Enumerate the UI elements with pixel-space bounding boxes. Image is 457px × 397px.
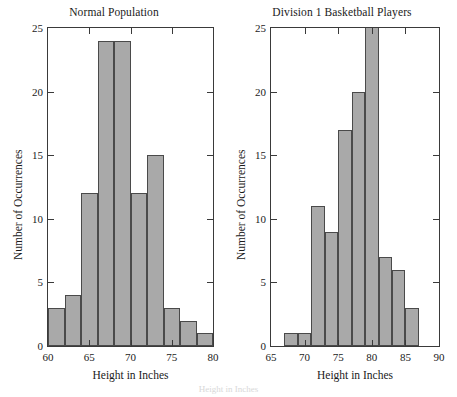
y-axis-tick-label: 5 [38,276,44,288]
y-axis-tick [271,282,277,283]
chart-title-left: Normal Population [0,6,228,18]
chart-title-right: Division 1 Basketball Players [228,6,456,18]
y-axis-tick [207,219,213,220]
x-axis-tick [405,28,406,34]
histogram-bar [352,92,365,346]
histogram-bar [392,270,405,346]
x-axis-tick-label: 75 [333,351,344,363]
y-axis-tick [207,155,213,156]
y-axis-tick-label: 20 [255,86,266,98]
y-axis-tick-label: 15 [32,149,43,161]
histogram-bar [379,257,392,346]
plot-area-right: 0510152025657075808590 [270,27,440,347]
x-axis-tick-label: 80 [366,351,377,363]
x-axis-tick [172,340,173,346]
y-axis-tick [433,219,439,220]
y-axis-tick-label: 20 [32,86,43,98]
histogram-figure: Normal Population 05101520256065707580 H… [0,0,457,397]
bars-container-right [271,28,439,346]
y-axis-tick-label: 25 [32,22,43,34]
y-axis-tick [48,92,54,93]
histogram-bar [338,130,351,346]
histogram-bar [311,206,324,346]
y-axis-tick [271,155,277,156]
histogram-bar [114,41,131,346]
histogram-bar [405,308,418,346]
histogram-bar [131,193,148,346]
x-axis-tick [338,340,339,346]
x-axis-title-left: Height in Inches [47,369,214,381]
y-axis-tick [433,282,439,283]
y-axis-title-right: Number of Occurrences [235,150,247,260]
histogram-bar [365,28,378,346]
y-axis-title-left: Number of Occurrences [12,150,24,260]
x-axis-tick-label: 80 [208,351,219,363]
x-axis-title-right: Height in Inches [270,369,440,381]
histogram-bar [284,333,297,346]
plot-area-left: 05101520256065707580 [47,27,214,347]
chart-panel-division-1-basketball: Division 1 Basketball Players 0510152025… [228,0,456,380]
x-axis-tick-label: 85 [400,351,411,363]
x-axis-tick [405,340,406,346]
histogram-bar [98,41,115,346]
x-axis-tick [372,28,373,34]
x-axis-tick [172,28,173,34]
histogram-bar [197,333,214,346]
x-axis-tick-label: 70 [125,351,136,363]
x-axis-tick [372,340,373,346]
y-axis-tick [433,92,439,93]
y-axis-tick [48,219,54,220]
y-axis-tick-label: 15 [255,149,266,161]
y-axis-tick-label: 25 [255,22,266,34]
y-axis-tick-label: 10 [32,213,43,225]
x-axis-tick-label: 75 [166,351,177,363]
y-axis-tick [271,92,277,93]
chart-panel-normal-population: Normal Population 05101520256065707580 H… [0,0,228,380]
caption-fragment: Height in Inches [0,384,457,394]
bars-container-left [48,28,213,346]
x-axis-tick [89,340,90,346]
histogram-bar [65,295,82,346]
histogram-bar [48,308,65,346]
y-axis-tick-label: 5 [261,276,267,288]
histogram-bar [81,193,98,346]
x-axis-tick [305,28,306,34]
x-axis-tick [338,28,339,34]
y-axis-tick [433,155,439,156]
x-axis-tick [305,340,306,346]
x-axis-tick [89,28,90,34]
y-axis-tick [207,282,213,283]
x-axis-tick [131,28,132,34]
histogram-bar [325,232,338,346]
x-axis-tick-label: 60 [43,351,54,363]
x-axis-tick [131,340,132,346]
y-axis-tick-label: 10 [255,213,266,225]
x-axis-tick-label: 70 [299,351,310,363]
y-axis-tick [48,282,54,283]
histogram-bar [147,155,164,346]
histogram-bar [180,321,197,346]
x-axis-tick-label: 90 [434,351,445,363]
y-axis-tick [271,219,277,220]
y-axis-tick [207,92,213,93]
x-axis-tick-label: 65 [266,351,277,363]
y-axis-tick [48,155,54,156]
x-axis-tick-label: 65 [84,351,95,363]
